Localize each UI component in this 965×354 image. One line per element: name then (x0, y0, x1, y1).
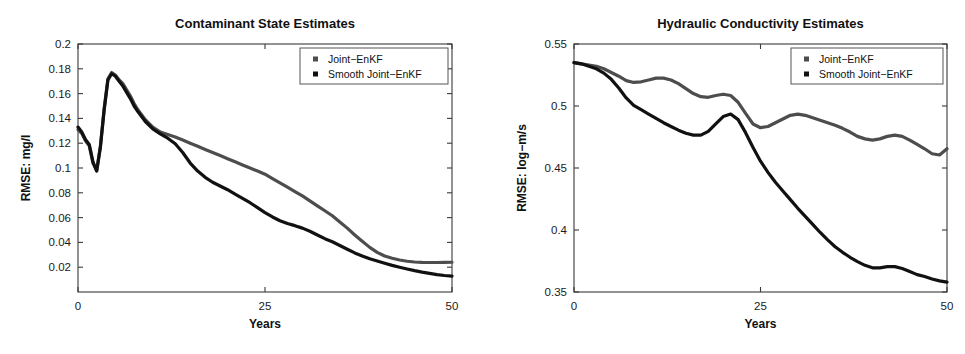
series-line-joint-enkf (78, 73, 452, 263)
y-tick-label: 0.06 (49, 212, 71, 224)
hydraulic-conductivity-chart: Hydraulic Conductivity Estimates0.350.40… (482, 0, 965, 354)
legend-marker-square-icon (804, 72, 809, 77)
legend-label: Joint−EnKF (819, 53, 874, 65)
y-tick-label: 0.55 (545, 38, 567, 50)
x-axis-title: Years (249, 317, 281, 331)
x-tick-label: 25 (259, 300, 272, 312)
y-tick-label: 0.45 (545, 162, 567, 174)
y-tick-label: 0.4 (551, 224, 568, 236)
x-axis-title: Years (744, 317, 776, 331)
x-tick-label: 0 (75, 300, 81, 312)
y-tick-label: 0.14 (49, 112, 72, 124)
y-tick-label: 0.02 (49, 261, 71, 273)
y-tick-label: 0.12 (49, 137, 71, 149)
chart-title: Hydraulic Conductivity Estimates (657, 16, 864, 31)
y-tick-label: 0.08 (49, 187, 71, 199)
contaminant-state-chart: Contaminant State Estimates0.020.040.060… (0, 0, 482, 354)
chart-title: Contaminant State Estimates (175, 16, 355, 31)
chart-panel-hydraulic: Hydraulic Conductivity Estimates0.350.40… (482, 0, 964, 354)
y-tick-label: 0.35 (545, 286, 567, 298)
x-tick-label: 50 (941, 300, 954, 312)
y-axis-title: RMSE: mg/l (19, 135, 33, 202)
x-tick-label: 0 (571, 300, 577, 312)
y-tick-label: 0.18 (49, 63, 71, 75)
y-tick-label: 0.04 (49, 236, 72, 248)
chart-panel-contaminant: Contaminant State Estimates0.020.040.060… (0, 0, 482, 354)
figure-container: Contaminant State Estimates0.020.040.060… (0, 0, 965, 354)
y-tick-label: 0.16 (49, 88, 71, 100)
legend-marker-square-icon (804, 57, 809, 62)
y-tick-label: 0.2 (55, 38, 71, 50)
legend-label: Smooth Joint−EnKF (328, 68, 422, 80)
x-tick-label: 50 (446, 300, 459, 312)
legend-label: Joint−EnKF (328, 53, 383, 65)
legend-marker-square-icon (313, 72, 318, 77)
x-tick-label: 25 (754, 300, 767, 312)
legend-label: Smooth Joint−EnKF (819, 68, 913, 80)
y-tick-label: 0.5 (551, 100, 567, 112)
series-line-smooth-joint-enkf (574, 63, 947, 282)
y-axis-title: RMSE: log−m/s (515, 124, 529, 212)
legend-marker-square-icon (313, 57, 318, 62)
y-tick-label: 0.1 (55, 162, 71, 174)
